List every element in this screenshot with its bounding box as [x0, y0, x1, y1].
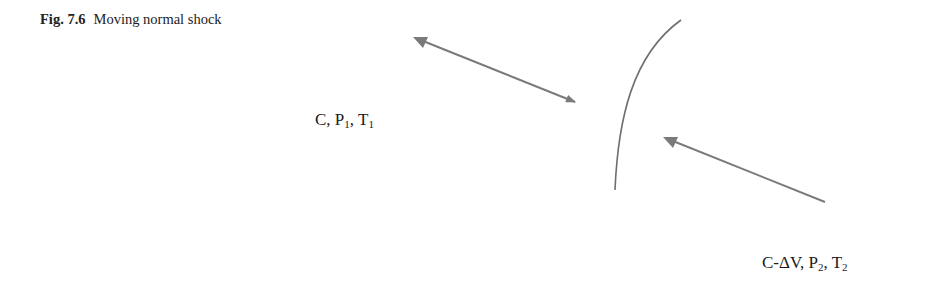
upstream-flow-arrow [413, 37, 575, 102]
downstream-pressure-subscript: 2 [818, 261, 824, 273]
upstream-pressure-subscript: 1 [344, 118, 350, 130]
shock-diagram [0, 0, 932, 285]
upstream-state-label: C, P1, T1 [315, 110, 374, 130]
upstream-temperature: T [358, 110, 368, 129]
upstream-velocity: C [315, 110, 326, 129]
downstream-state-label: C-ΔV, P2, T2 [762, 253, 848, 273]
upstream-temperature-subscript: 1 [368, 118, 374, 130]
downstream-temperature: T [832, 253, 842, 272]
downstream-pressure: P [809, 253, 818, 272]
shock-wave-curve [615, 20, 681, 190]
downstream-temperature-subscript: 2 [842, 261, 848, 273]
upstream-pressure: P [335, 110, 344, 129]
downstream-velocity: C-ΔV [762, 253, 800, 272]
downstream-flow-arrow [663, 137, 825, 202]
